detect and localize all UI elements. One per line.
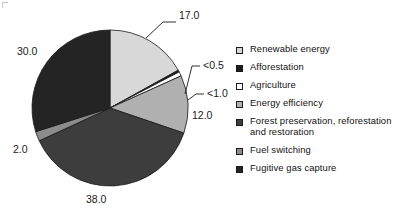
legend-swatch-afforestation	[236, 65, 243, 72]
leader-line-afforestation	[185, 66, 200, 94]
leader-line-agriculture	[188, 94, 204, 100]
legend-item-agriculture[interactable]: Agriculture	[236, 80, 408, 91]
legend: Renewable energy Afforestation Agricultu…	[236, 44, 408, 181]
leader-line-renewable	[146, 22, 176, 38]
legend-swatch-fuel-switching	[236, 148, 243, 155]
legend-item-energy-efficiency[interactable]: Energy efficiency	[236, 98, 408, 109]
legend-item-forest-preservation[interactable]: Forest preservation, reforestation and r…	[236, 116, 408, 137]
legend-swatch-forest-preservation	[236, 119, 243, 126]
legend-swatch-agriculture	[236, 83, 243, 90]
legend-swatch-fugitive-gas-capture	[236, 166, 243, 173]
legend-label-afforestation: Afforestation	[250, 62, 304, 73]
legend-item-afforestation[interactable]: Afforestation	[236, 62, 408, 73]
legend-swatch-renewable-energy	[236, 47, 243, 54]
pie-slices	[32, 30, 188, 186]
legend-label-fuel-switching: Fuel switching	[250, 145, 311, 156]
value-label-agriculture: <1.0	[207, 87, 228, 99]
value-label-fugitive-gas: 30.0	[17, 45, 38, 57]
legend-swatch-energy-efficiency	[236, 101, 243, 108]
value-label-energy-efficiency: 12.0	[192, 109, 213, 121]
value-label-fuel-switching: 2.0	[13, 143, 28, 155]
value-label-renewable: 17.0	[179, 9, 200, 21]
value-label-afforestation: <0.5	[203, 59, 224, 71]
legend-item-fuel-switching[interactable]: Fuel switching	[236, 145, 408, 156]
legend-label-renewable-energy: Renewable energy	[250, 44, 330, 55]
value-label-forest-preservation: 38.0	[86, 193, 107, 205]
legend-item-renewable-energy[interactable]: Renewable energy	[236, 44, 408, 55]
legend-item-fugitive-gas-capture[interactable]: Fugitive gas capture	[236, 163, 408, 174]
legend-label-agriculture: Agriculture	[250, 80, 296, 91]
legend-label-forest-preservation: Forest preservation, reforestation and r…	[250, 116, 408, 137]
legend-label-energy-efficiency: Energy efficiency	[250, 98, 323, 109]
legend-label-fugitive-gas-capture: Fugitive gas capture	[250, 163, 336, 174]
pie-chart-figure: 17.0 <0.5 <1.0 12.0 38.0 2.0 30.0 Renewa…	[0, 0, 408, 216]
